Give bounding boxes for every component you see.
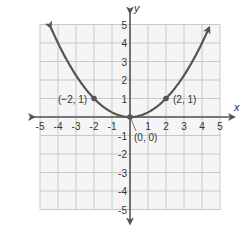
x-tick-label: 3 bbox=[181, 121, 187, 132]
y-tick-label: 3 bbox=[121, 57, 127, 68]
x-tick-label: 5 bbox=[217, 121, 223, 132]
x-tick-label: -3 bbox=[72, 121, 81, 132]
y-tick-label: 1 bbox=[121, 94, 127, 105]
x-tick-label: 4 bbox=[199, 121, 205, 132]
y-tick-label: -2 bbox=[118, 149, 127, 160]
y-tick-label: 5 bbox=[121, 20, 127, 31]
point-label: (0, 0) bbox=[134, 132, 157, 143]
y-axis-label: y bbox=[133, 2, 141, 14]
point-marker bbox=[163, 96, 169, 102]
x-tick-label: 2 bbox=[163, 121, 169, 132]
x-tick-label: -5 bbox=[36, 121, 45, 132]
x-tick-label: -2 bbox=[90, 121, 99, 132]
x-tick-label: 1 bbox=[145, 121, 151, 132]
coordinate-plane: -5-4-3-2-11234554321-1-2-3-4-5 (−2, 1)(0… bbox=[0, 0, 248, 238]
point-label: (2, 1) bbox=[173, 94, 196, 105]
y-tick-label: 4 bbox=[121, 38, 127, 49]
y-tick-label: -1 bbox=[118, 131, 127, 142]
x-tick-label: -1 bbox=[108, 121, 117, 132]
x-tick-label: -4 bbox=[54, 121, 63, 132]
point-marker bbox=[91, 96, 97, 102]
y-tick-label: -4 bbox=[118, 186, 127, 197]
x-axis-label: x bbox=[233, 101, 240, 113]
y-tick-label: -5 bbox=[118, 205, 127, 216]
point-label: (−2, 1) bbox=[58, 94, 87, 105]
y-tick-label: 2 bbox=[121, 75, 127, 86]
y-tick-label: -3 bbox=[118, 168, 127, 179]
point-marker bbox=[127, 114, 133, 120]
